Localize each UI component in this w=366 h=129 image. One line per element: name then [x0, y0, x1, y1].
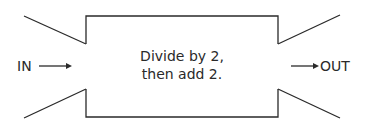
rule-line-1: Divide by 2,	[120, 47, 244, 65]
function-machine-diagram: IN OUT Divide by 2, then add 2.	[0, 0, 366, 129]
input-funnel-top	[24, 16, 86, 44]
machine-rule: Divide by 2, then add 2.	[120, 47, 244, 83]
machine-box-top	[86, 16, 278, 44]
machine-box-bottom	[86, 89, 278, 117]
output-funnel-bottom	[278, 89, 340, 118]
rule-line-2: then add 2.	[120, 65, 244, 83]
output-funnel-top	[278, 15, 340, 44]
input-funnel-bottom	[24, 89, 86, 118]
output-label: OUT	[320, 58, 350, 74]
output-arrow-head-icon	[313, 63, 319, 69]
input-arrow-head-icon	[66, 63, 72, 69]
input-label: IN	[17, 58, 32, 74]
